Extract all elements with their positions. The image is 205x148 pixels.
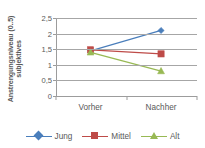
- legend-label: Jung: [55, 132, 73, 141]
- legend-marker-triangle-icon: [150, 132, 158, 140]
- line-chart: subjektives Anstrengungsniveau (0..5) 2,…: [0, 0, 205, 148]
- legend-label: Alt: [170, 132, 180, 141]
- x-axis-labels: VorherNachher: [56, 101, 197, 115]
- y-axis-tick-label: 2,5: [41, 14, 52, 23]
- legend-marker-diamond-icon: [35, 132, 43, 140]
- legend-swatch-square-icon: [82, 131, 108, 141]
- gridline: [56, 34, 197, 35]
- x-axis-tick: [197, 96, 198, 100]
- legend-marker-shape: [150, 132, 158, 139]
- gridline: [56, 18, 197, 19]
- legend-marker-square-icon: [91, 132, 99, 140]
- legend-item-jung[interactable]: Jung: [26, 131, 73, 141]
- series-line-mittel: [91, 50, 162, 54]
- plot-area: [56, 18, 197, 96]
- legend-marker-shape: [33, 131, 43, 141]
- legend-item-alt[interactable]: Alt: [141, 131, 180, 141]
- x-axis-tick: [126, 96, 127, 100]
- y-axis-tick: [53, 34, 56, 35]
- legend-swatch-triangle-icon: [141, 131, 167, 141]
- x-axis-tick: [56, 96, 57, 100]
- chart-legend: JungMittelAlt: [0, 128, 205, 144]
- y-axis-tick-label: 0: [48, 92, 52, 101]
- data-point-mittel: [158, 51, 164, 57]
- gridline: [56, 65, 197, 66]
- y-axis-title: subjektives Anstrengungsniveau (0..5): [0, 0, 32, 118]
- y-axis-tick: [53, 49, 56, 50]
- legend-item-mittel[interactable]: Mittel: [82, 131, 131, 141]
- legend-label: Mittel: [111, 132, 131, 141]
- gridline: [56, 80, 197, 81]
- legend-marker-shape: [91, 132, 98, 139]
- series-line-alt: [91, 52, 162, 71]
- y-axis-tick: [53, 65, 56, 66]
- gridline: [56, 49, 197, 50]
- legend-swatch-diamond-icon: [26, 131, 52, 141]
- y-axis-tick: [53, 18, 56, 19]
- series-layer: [56, 18, 197, 96]
- y-axis-tick-label: 0,5: [41, 76, 52, 85]
- x-axis-label: Vorher: [78, 103, 102, 112]
- y-axis-tick-labels: 2,521,510,50: [30, 14, 54, 96]
- y-axis-title-line-1: subjektives: [16, 40, 24, 78]
- y-axis-tick: [53, 80, 56, 81]
- x-axis-label: Nachher: [146, 103, 177, 112]
- y-axis-tick-label: 2: [48, 29, 52, 38]
- y-axis-tick-label: 1: [48, 60, 52, 69]
- y-axis-tick-label: 1,5: [41, 45, 52, 54]
